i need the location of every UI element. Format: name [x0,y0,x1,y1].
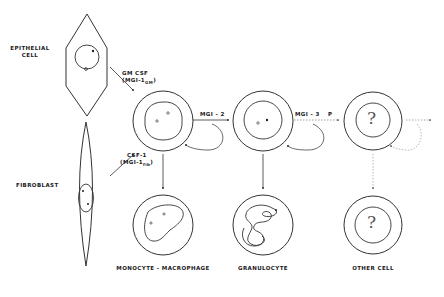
other-cell-label: OTHER CELL [338,265,408,272]
epithelial-label-line2: CELL [5,52,55,59]
gm-csf-line1: GM CSF [122,70,156,77]
csf1-line1: CSF-1 [120,152,153,159]
fibroblast-shape [79,122,94,266]
gm-csf-suffix: ) [153,77,156,83]
progenitor-cell-1 [133,91,193,151]
monocyte-macrophage-cell [133,195,193,255]
epithelial-label-line1: EPITHELIAL [5,45,55,52]
fibroblast-label: FIBROBLAST [16,182,59,189]
granulocyte-cell [233,195,293,255]
p-label: P [328,111,332,118]
monocyte-macrophage-label: MONOCYTE - MACROPHAGE [113,265,213,272]
granulocyte-label: GRANULOCYTE [223,265,303,272]
gm-csf-sub: GM [145,79,153,84]
progenitor-cell-2 [233,91,293,151]
mgi2-label: MGI - 2 [200,111,225,118]
csf1-line2: (MGI-1fib) [120,159,153,167]
self-renewal-loop-2 [288,124,324,150]
epithelial-cell-shape [66,14,107,116]
diagram-graphics [0,0,444,297]
unknown-marker-progenitor: ? [367,108,376,128]
self-renewal-loop-3 [391,124,421,150]
epithelial-cell-label: EPITHELIAL CELL [5,45,55,59]
cell-differentiation-diagram: ? ? EPITHELIAL CELL FIBROBLAST GM CSF (M… [0,0,444,297]
gm-csf-prefix: (MGI-1 [122,77,145,83]
gm-csf-line2: (MGI-1GM) [122,77,156,85]
csf1-label: CSF-1 (MGI-1fib) [120,152,153,166]
unknown-marker-other-cell: ? [367,212,376,232]
csf1-prefix: (MGI-1 [120,159,143,165]
csf1-suffix: ) [150,159,153,165]
self-renewal-loop-1 [186,124,223,150]
gm-csf-label: GM CSF (MGI-1GM) [122,70,156,84]
mgi3-label: MGI - 3 [295,111,320,118]
